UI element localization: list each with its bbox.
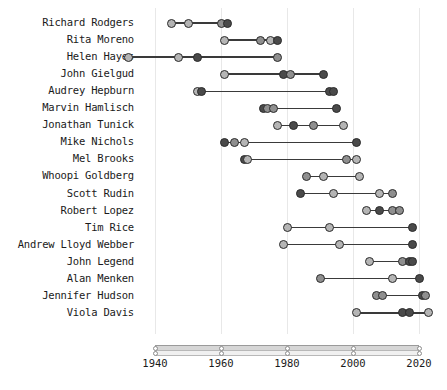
tick-mark-lower-2000 xyxy=(351,351,356,356)
x-tick-label-2000: 2000 xyxy=(328,357,378,369)
tick-mark-lower-2020 xyxy=(417,351,422,356)
tick-mark-upper-1980 xyxy=(285,346,290,351)
x-axis: 19401960198020002020 xyxy=(0,0,447,390)
tick-mark-upper-2000 xyxy=(351,346,356,351)
tick-mark-lower-1980 xyxy=(285,351,290,356)
x-tick-label-1940: 1940 xyxy=(130,357,180,369)
x-tick-label-1980: 1980 xyxy=(262,357,312,369)
tick-mark-lower-1960 xyxy=(219,351,224,356)
tick-mark-upper-1940 xyxy=(153,346,158,351)
egot-timeline-chart: Richard RodgersRita MorenoHelen HayesJoh… xyxy=(0,0,447,390)
x-tick-label-1960: 1960 xyxy=(196,357,246,369)
tick-mark-upper-2020 xyxy=(417,346,422,351)
tick-mark-upper-1960 xyxy=(219,346,224,351)
tick-mark-lower-1940 xyxy=(153,351,158,356)
x-tick-label-2020: 2020 xyxy=(394,357,444,369)
